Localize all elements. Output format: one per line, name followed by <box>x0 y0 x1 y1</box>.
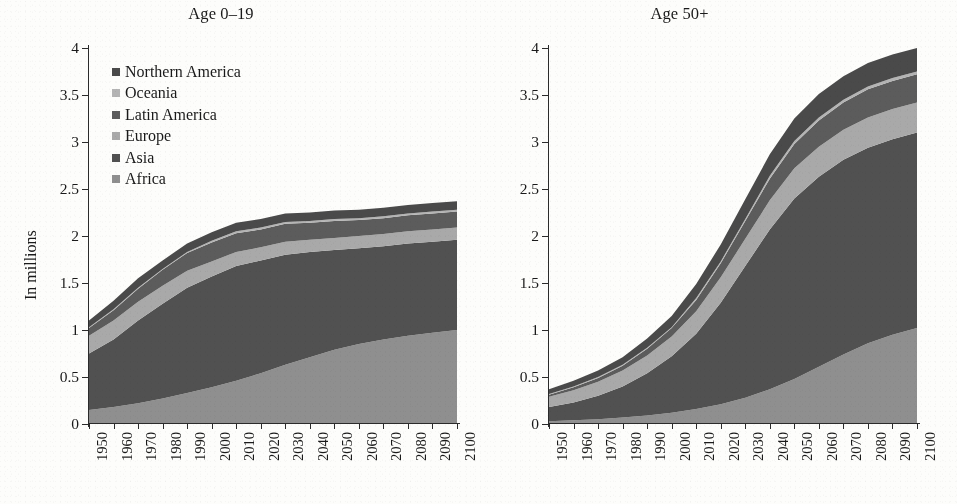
x-tick <box>696 424 697 429</box>
x-tick <box>770 424 771 429</box>
y-axis-line-left <box>88 45 89 427</box>
y-tick <box>542 48 548 49</box>
y-tick-label: 1.5 <box>60 275 79 291</box>
legend-item-africa: Africa <box>112 169 241 191</box>
y-tick <box>82 236 88 237</box>
x-tick-label: 1960 <box>580 432 595 461</box>
legend-label: Northern America <box>125 64 241 80</box>
x-tick <box>745 424 746 429</box>
x-tick-label: 2030 <box>291 432 306 461</box>
legend-swatch-icon <box>112 89 120 97</box>
x-tick-label: 1960 <box>120 432 135 461</box>
x-tick <box>310 424 311 429</box>
x-tick <box>843 424 844 429</box>
legend-item-northern-america: Northern America <box>112 61 241 83</box>
plot-area-right: 00.511.522.533.54 1950196019701980199020… <box>548 48 918 424</box>
x-tick-label: 2000 <box>678 432 693 461</box>
x-tick-label: 1990 <box>193 432 208 461</box>
legend-item-europe: Europe <box>112 126 241 148</box>
x-tick-label: 1970 <box>144 432 159 461</box>
x-tick-label: 2060 <box>365 432 380 461</box>
x-tick-label: 2060 <box>825 432 840 461</box>
y-tick-label: 0 <box>531 416 539 432</box>
legend-item-latin-america: Latin America <box>112 104 241 126</box>
x-tick-label: 2010 <box>702 432 717 461</box>
y-tick-label: 4 <box>531 40 539 56</box>
y-tick <box>82 189 88 190</box>
legend-label: Oceania <box>125 85 177 101</box>
y-tick-label: 0.5 <box>60 369 79 385</box>
legend-label: Africa <box>125 171 166 187</box>
legend-swatch-icon <box>112 111 120 119</box>
y-tick <box>542 283 548 284</box>
y-tick-label: 2 <box>71 228 79 244</box>
x-tick <box>672 424 673 429</box>
x-tick-label: 2070 <box>849 432 864 461</box>
x-tick <box>868 424 869 429</box>
x-tick <box>114 424 115 429</box>
y-axis-label-left: In millions <box>22 230 40 300</box>
y-tick-label: 3.5 <box>520 87 539 103</box>
y-tick-label: 4 <box>71 40 79 56</box>
y-tick-label: 1 <box>531 322 539 338</box>
legend-item-oceania: Oceania <box>112 83 241 105</box>
y-tick <box>82 330 88 331</box>
x-tick-label: 2010 <box>242 432 257 461</box>
y-tick-label: 2.5 <box>520 181 539 197</box>
x-tick <box>598 424 599 429</box>
panel-age-50-plus: Age 50+ In millions 00.511.522.533.54 19… <box>478 0 957 504</box>
x-tick <box>187 424 188 429</box>
x-tick-label: 1980 <box>629 432 644 461</box>
y-tick <box>82 48 88 49</box>
legend-swatch-icon <box>112 132 120 140</box>
legend-left: Northern AmericaOceaniaLatin AmericaEuro… <box>112 61 241 190</box>
x-tick <box>917 424 918 429</box>
stacked-area-right <box>548 48 920 424</box>
x-tick <box>549 424 550 429</box>
panel-title-right: Age 50+ <box>440 4 919 24</box>
x-tick-label: 2000 <box>218 432 233 461</box>
x-tick-label: 1980 <box>169 432 184 461</box>
x-tick-label: 1950 <box>555 432 570 461</box>
x-tick-label: 2040 <box>776 432 791 461</box>
x-axis-line-right <box>548 423 920 424</box>
x-tick <box>212 424 213 429</box>
x-tick-label: 2080 <box>414 432 429 461</box>
y-tick-label: 3 <box>531 134 539 150</box>
y-tick-label: 1 <box>71 322 79 338</box>
x-tick-label: 2030 <box>751 432 766 461</box>
x-tick <box>89 424 90 429</box>
x-tick <box>892 424 893 429</box>
legend-swatch-icon <box>112 68 120 76</box>
x-tick-label: 2040 <box>316 432 331 461</box>
y-tick <box>82 377 88 378</box>
x-tick <box>408 424 409 429</box>
x-tick-label: 2050 <box>340 432 355 461</box>
x-tick <box>163 424 164 429</box>
y-tick <box>82 95 88 96</box>
legend-label: Asia <box>125 150 154 166</box>
x-tick-label: 2020 <box>727 432 742 461</box>
legend-item-asia: Asia <box>112 147 241 169</box>
x-tick-label: 2100 <box>923 432 938 461</box>
x-tick <box>383 424 384 429</box>
x-tick <box>574 424 575 429</box>
y-tick <box>542 377 548 378</box>
x-tick <box>721 424 722 429</box>
x-tick <box>623 424 624 429</box>
x-tick-label: 2090 <box>898 432 913 461</box>
x-tick <box>457 424 458 429</box>
panel-title-left: Age 0–19 <box>0 4 460 24</box>
x-tick <box>359 424 360 429</box>
x-tick-label: 2100 <box>463 432 478 461</box>
x-tick <box>819 424 820 429</box>
legend-swatch-icon <box>112 154 120 162</box>
x-tick <box>285 424 286 429</box>
legend-label: Latin America <box>125 107 217 123</box>
y-tick-label: 2 <box>531 228 539 244</box>
x-axis-line-left <box>88 423 460 424</box>
x-tick <box>261 424 262 429</box>
x-tick <box>794 424 795 429</box>
legend-label: Europe <box>125 128 171 144</box>
x-tick-label: 2070 <box>389 432 404 461</box>
